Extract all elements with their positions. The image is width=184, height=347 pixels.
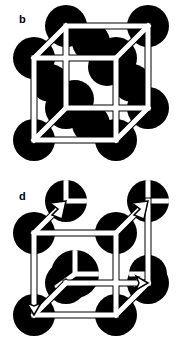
panel-b-drawing — [0, 0, 184, 172]
panel-d: d — [0, 175, 184, 347]
crystal-structure-figure: b — [0, 0, 184, 347]
panel-b-label: b — [19, 14, 26, 25]
panel-d-drawing — [0, 175, 184, 347]
panel-b: b — [0, 0, 184, 172]
panel-d-label: d — [19, 191, 26, 202]
